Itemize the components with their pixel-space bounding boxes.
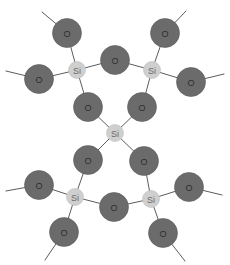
oxygen-label: O bbox=[110, 203, 117, 213]
oxygen-atom: O bbox=[130, 147, 159, 176]
oxygen-atom: O bbox=[177, 68, 206, 97]
oxygen-atom: O bbox=[101, 46, 130, 75]
oxygen-atom: O bbox=[53, 19, 82, 48]
silicon-atom: Si bbox=[143, 191, 160, 208]
silicon-label: Si bbox=[111, 129, 119, 139]
oxygen-label: O bbox=[159, 229, 166, 239]
oxygen-label: O bbox=[35, 181, 42, 191]
silicon-label: Si bbox=[148, 66, 156, 76]
oxygen-label: O bbox=[140, 157, 147, 167]
oxygen-label: O bbox=[35, 75, 42, 85]
oxygen-label: O bbox=[138, 103, 145, 113]
silicate-structure-diagram: OOOOOOOOOOOOOOSiSiSiSiSi bbox=[0, 0, 230, 265]
oxygen-label: O bbox=[185, 183, 192, 193]
oxygen-atom: O bbox=[74, 93, 103, 122]
oxygen-atom: O bbox=[25, 65, 54, 94]
silicon-atom: Si bbox=[67, 189, 84, 206]
oxygen-atom: O bbox=[128, 93, 157, 122]
atoms-layer: OOOOOOOOOOOOOOSiSiSiSiSi bbox=[25, 19, 206, 248]
oxygen-atom: O bbox=[151, 19, 180, 48]
oxygen-label: O bbox=[84, 156, 91, 166]
silicon-label: Si bbox=[73, 66, 81, 76]
silicon-label: Si bbox=[147, 195, 155, 205]
oxygen-label: O bbox=[187, 78, 194, 88]
oxygen-label: O bbox=[60, 228, 67, 238]
oxygen-label: O bbox=[161, 29, 168, 39]
oxygen-atom: O bbox=[25, 171, 54, 200]
oxygen-atom: O bbox=[74, 146, 103, 175]
silicon-label: Si bbox=[71, 193, 79, 203]
silicon-atom: Si bbox=[144, 62, 161, 79]
oxygen-atom: O bbox=[175, 173, 204, 202]
oxygen-label: O bbox=[111, 56, 118, 66]
oxygen-label: O bbox=[84, 103, 91, 113]
oxygen-atom: O bbox=[149, 219, 178, 248]
silicon-atom: Si bbox=[69, 62, 86, 79]
oxygen-label: O bbox=[63, 29, 70, 39]
oxygen-atom: O bbox=[50, 218, 79, 247]
oxygen-atom: O bbox=[100, 193, 129, 222]
silicon-atom: Si bbox=[107, 125, 124, 142]
